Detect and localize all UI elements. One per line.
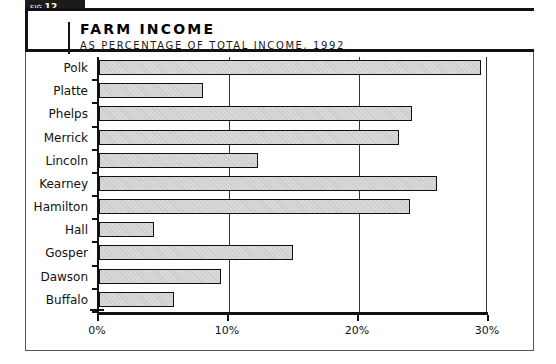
bar	[99, 269, 221, 284]
bar-row	[99, 289, 486, 312]
bar-row	[99, 80, 486, 103]
bar-row	[99, 150, 486, 173]
bar-row	[99, 219, 486, 242]
value-tick	[97, 315, 99, 321]
category-label: Dawson	[2, 268, 88, 286]
category-tick	[92, 102, 98, 104]
category-label: Hamilton	[2, 198, 88, 216]
category-label: Kearney	[2, 175, 88, 193]
category-tick	[92, 79, 98, 81]
value-tick-label: 0%	[88, 324, 105, 337]
category-tick	[92, 172, 98, 174]
category-label: Phelps	[2, 105, 88, 123]
category-label: Merrick	[2, 129, 88, 147]
bar	[99, 176, 437, 191]
value-axis-line	[97, 312, 488, 315]
bar-row	[99, 173, 486, 196]
bar-row	[99, 57, 486, 80]
category-axis: PolkPlattePhelpsMerrickLincolnKearneyHam…	[0, 57, 88, 312]
title-text-group: FARM INCOME AS PERCENTAGE OF TOTAL INCOM…	[68, 22, 345, 54]
category-tick	[92, 149, 98, 151]
bar-row	[99, 103, 486, 126]
bar-row	[99, 127, 486, 150]
bar-row	[99, 242, 486, 265]
chart-title: FARM INCOME	[80, 22, 345, 37]
value-tick	[227, 315, 229, 321]
bar	[99, 292, 174, 307]
plot-area	[97, 57, 487, 312]
category-label: Lincoln	[2, 152, 88, 170]
category-tick	[92, 126, 98, 128]
title-block: FARM INCOME AS PERCENTAGE OF TOTAL INCOM…	[25, 8, 534, 52]
category-tick	[92, 311, 98, 313]
category-tick	[92, 288, 98, 290]
bar	[99, 199, 410, 214]
category-label: Hall	[2, 221, 88, 239]
bar	[99, 222, 154, 237]
chart-subtitle: AS PERCENTAGE OF TOTAL INCOME, 1992	[80, 38, 345, 53]
plot-area-wrapper	[97, 57, 487, 312]
bar	[99, 83, 203, 98]
category-label: Gosper	[2, 244, 88, 262]
category-label: Platte	[2, 82, 88, 100]
figure-container: FIG.12. FARM INCOME AS PERCENTAGE OF TOT…	[0, 0, 556, 364]
category-tick	[92, 218, 98, 220]
value-tick-label: 20%	[345, 324, 369, 337]
category-label: Buffalo	[2, 291, 88, 309]
bar	[99, 60, 481, 75]
bar	[99, 153, 258, 168]
category-tick	[92, 241, 98, 243]
category-tick	[92, 265, 98, 267]
value-tick-label: 10%	[215, 324, 239, 337]
bar	[99, 106, 412, 121]
value-tick	[487, 315, 489, 321]
bar	[99, 130, 399, 145]
bar	[99, 245, 293, 260]
value-tick-label: 30%	[475, 324, 499, 337]
category-tick	[92, 195, 98, 197]
bar-row	[99, 266, 486, 289]
bar-row	[99, 196, 486, 219]
value-tick	[357, 315, 359, 321]
category-label: Polk	[2, 59, 88, 77]
